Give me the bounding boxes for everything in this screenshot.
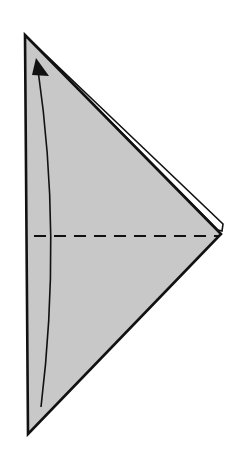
- paper-triangle: [25, 35, 221, 434]
- origami-diagram: [0, 0, 237, 469]
